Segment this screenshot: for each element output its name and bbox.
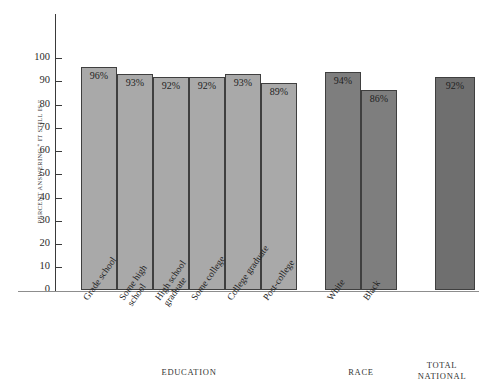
y-tick-label-80: 80 [20, 99, 50, 110]
y-tick-100 [55, 58, 62, 59]
y-tick-90 [55, 81, 62, 82]
y-tick-label-20: 20 [20, 238, 50, 249]
bar-post-college[interactable]: 89% [261, 83, 297, 290]
y-tick-60 [55, 151, 62, 152]
y-tick-70 [55, 128, 62, 129]
y-tick-label-70: 70 [20, 122, 50, 133]
group-label-education: EDUCATION [129, 367, 249, 378]
y-tick-40 [55, 198, 62, 199]
y-tick-label-30: 30 [20, 215, 50, 226]
bar-value-label: 96% [82, 71, 116, 81]
y-tick-label-90: 90 [20, 75, 50, 86]
bar-value-label: 86% [362, 94, 396, 104]
bar-value-label: 89% [262, 87, 296, 97]
y-tick-30 [55, 221, 62, 222]
y-tick-80 [55, 105, 62, 106]
y-tick-label-0: 0 [20, 284, 50, 295]
bar-chart: PERCENT ANSWERING “ IT STILL IS ” 100 90… [0, 0, 479, 389]
y-tick-label-40: 40 [20, 192, 50, 203]
bar-total-national[interactable]: 92% [435, 77, 475, 290]
bar-value-label: 93% [226, 78, 260, 88]
group-label-total-national-line1: TOTAL [405, 360, 479, 371]
y-axis-line [55, 14, 56, 291]
bar-value-label: 92% [190, 81, 224, 91]
group-label-total-national-line2: NATIONAL [405, 371, 479, 382]
y-tick-50 [55, 174, 62, 175]
bar-value-label: 94% [326, 76, 360, 86]
group-label-race: RACE [311, 367, 411, 378]
bar-some-high-school[interactable]: 93% [117, 74, 153, 290]
y-tick-label-100: 100 [20, 52, 50, 63]
bar-value-label: 92% [154, 81, 188, 91]
bar-high-school-graduate[interactable]: 92% [153, 77, 189, 290]
y-tick-label-50: 50 [20, 168, 50, 179]
y-tick-label-10: 10 [20, 261, 50, 272]
y-tick-20 [55, 244, 62, 245]
bar-black[interactable]: 86% [361, 90, 397, 290]
group-label-total-national: TOTAL NATIONAL [405, 360, 479, 381]
bar-value-label: 93% [118, 78, 152, 88]
bar-white[interactable]: 94% [325, 72, 361, 290]
y-tick-10 [55, 267, 62, 268]
y-tick-label-60: 60 [20, 145, 50, 156]
bar-value-label: 92% [436, 81, 474, 91]
